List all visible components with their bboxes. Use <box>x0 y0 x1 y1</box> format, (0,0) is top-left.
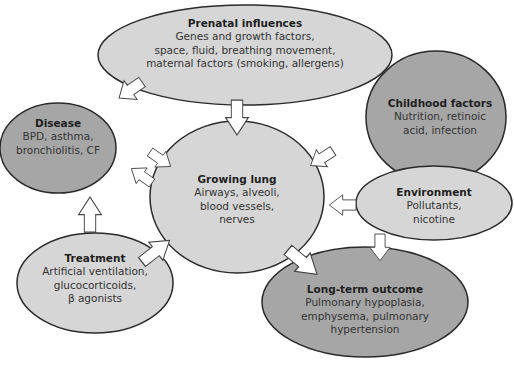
node-disease-line: bronchiolitis, CF <box>16 144 100 158</box>
node-childhood-title: Childhood factors <box>388 96 493 110</box>
node-growing-lung-line: blood vessels, <box>194 200 279 214</box>
arrow-environment-to-lung <box>329 195 356 215</box>
node-treatment: Treatment Artificial ventilation, glucoc… <box>42 251 148 306</box>
node-environment-line: nicotine <box>396 213 472 227</box>
node-disease: Disease BPD, asthma, bronchiolitis, CF <box>16 116 100 157</box>
node-environment: Environment Pollutants, nicotine <box>396 185 472 226</box>
node-environment-line: Pollutants, <box>396 199 472 213</box>
node-prenatal-title: Prenatal influences <box>146 16 344 30</box>
node-disease-line: BPD, asthma, <box>16 130 100 144</box>
node-treatment-line: glucocorticoids, <box>42 279 148 293</box>
node-childhood-line: Nutrition, retinoic <box>388 110 493 124</box>
node-growing-lung-line: Airways, alveoli, <box>194 186 279 200</box>
node-treatment-line: Artificial ventilation, <box>42 265 148 279</box>
node-growing-lung: Growing lung Airways, alveoli, blood ves… <box>194 172 279 227</box>
node-growing-lung-line: nerves <box>194 213 279 227</box>
node-prenatal: Prenatal influences Genes and growth fac… <box>146 16 344 71</box>
arrow-treatment-to-disease <box>79 197 102 232</box>
node-prenatal-line: maternal factors (smoking, allergens) <box>146 57 344 71</box>
node-outcome-line: hypertension <box>301 323 429 337</box>
node-prenatal-line: Genes and growth factors, <box>146 30 344 44</box>
node-childhood-line: acid, infection <box>388 124 493 138</box>
node-growing-lung-title: Growing lung <box>194 172 279 186</box>
node-treatment-title: Treatment <box>42 251 148 265</box>
node-treatment-line: β agonists <box>42 292 148 306</box>
node-outcome-line: Pulmonary hypoplasia, <box>301 296 429 310</box>
node-outcome-line: emphysema, pulmonary <box>301 310 429 324</box>
node-outcome: Long-term outcome Pulmonary hypoplasia, … <box>301 282 429 337</box>
node-prenatal-line: space, fluid, breathing movement, <box>146 44 344 58</box>
cropped-caption-fragment <box>0 358 300 366</box>
node-childhood: Childhood factors Nutrition, retinoic ac… <box>388 96 493 137</box>
node-environment-title: Environment <box>396 185 472 199</box>
node-outcome-title: Long-term outcome <box>301 282 429 296</box>
node-disease-title: Disease <box>16 116 100 130</box>
